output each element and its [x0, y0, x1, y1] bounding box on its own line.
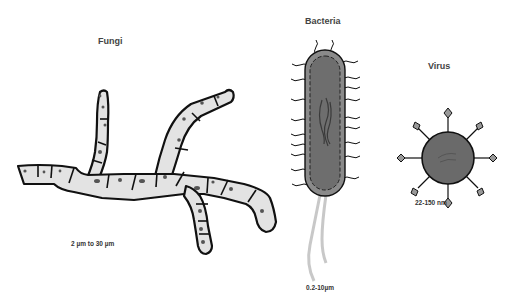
bacteria-illustration	[291, 40, 360, 281]
bacteria-title: Bacteria	[305, 16, 341, 26]
fungi-size-range: 2 µm to 30 µm	[71, 240, 114, 247]
virus-size-range: 22-150 nm	[415, 199, 447, 206]
fungi-septa	[38, 96, 256, 234]
virus-illustration	[397, 108, 497, 208]
virus-title: Virus	[428, 61, 450, 71]
diagram-canvas	[0, 0, 508, 301]
fungi-title: Fungi	[98, 36, 123, 46]
bacteria-size-range: 0.2-10µm	[306, 284, 334, 291]
fungi-hyphae-illustration	[18, 90, 276, 254]
